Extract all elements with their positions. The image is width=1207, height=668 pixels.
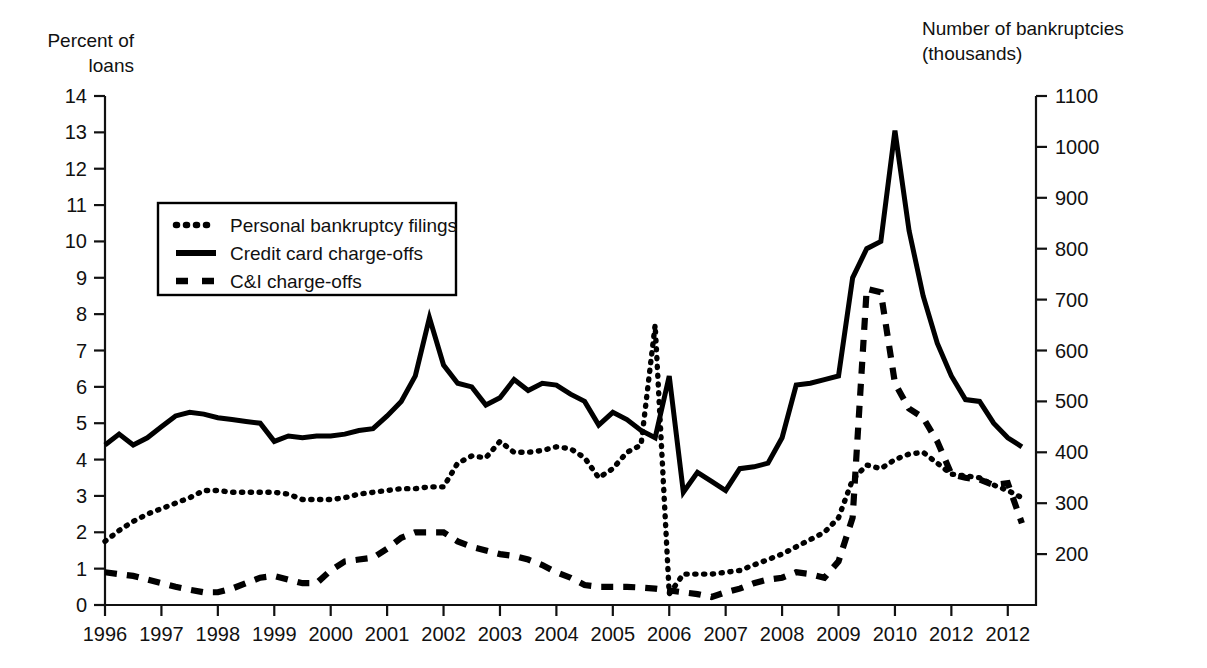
plot-frame (105, 96, 1036, 605)
y-axis-right-tick-label: 200 (1055, 543, 1088, 565)
legend-label: C&I charge-offs (230, 271, 362, 292)
x-axis-tick-label: 1996 (83, 623, 128, 645)
y-axis-left-tick-label: 13 (65, 121, 87, 143)
x-axis-tick-label: 2003 (478, 623, 523, 645)
x-axis-tick-label: 1997 (139, 623, 184, 645)
x-axis-tick-label: 2007 (703, 623, 748, 645)
y-axis-left-tick-label: 11 (66, 194, 87, 216)
y-axis-right-tick-label: 300 (1055, 492, 1088, 514)
left-axis-title: Percent of loans (14, 28, 134, 78)
x-axis-tick-label: 2004 (534, 623, 579, 645)
x-axis-tick-label: 1999 (252, 623, 297, 645)
legend-label: Personal bankruptcy filings (230, 215, 457, 236)
x-axis-tick-label: 2002 (421, 623, 466, 645)
y-axis-left-tick-label: 4 (76, 449, 87, 471)
x-axis-tick-label: 2012 (929, 623, 974, 645)
x-axis-tick-label: 2006 (647, 623, 692, 645)
x-axis-tick-label: 2012 (986, 623, 1031, 645)
y-axis-left-tick-label: 7 (76, 340, 87, 362)
series-personal-bankruptcy-filings (105, 325, 1022, 594)
x-axis-tick-label: 2009 (816, 623, 861, 645)
y-axis-left-tick-label: 8 (76, 303, 87, 325)
y-axis-right-tick-label: 700 (1055, 289, 1088, 311)
y-axis-left-tick-label: 1 (76, 558, 87, 580)
chart-figure: Percent of loans Number of bankruptcies … (0, 0, 1207, 668)
data-series-group (105, 131, 1022, 597)
series-c-i-charge-offs (105, 289, 1022, 597)
y-axis-left-tick-label: 2 (76, 521, 87, 543)
legend-label: Credit card charge-offs (230, 243, 423, 264)
x-axis-tick-label: 2000 (308, 623, 353, 645)
x-axis-ticks: 1996199719981999200020012002200320042005… (83, 605, 1030, 645)
y-axis-left-tick-label: 3 (76, 485, 87, 507)
y-axis-left-tick-label: 6 (76, 376, 87, 398)
x-axis-tick-label: 2005 (591, 623, 636, 645)
y-axis-right-tick-label: 400 (1055, 441, 1088, 463)
y-axis-right-tick-label: 1000 (1055, 136, 1100, 158)
axis-spines (105, 96, 1036, 605)
x-axis-tick-label: 2008 (760, 623, 805, 645)
y-axis-right-tick-label: 500 (1055, 390, 1088, 412)
y-axis-right-ticks: 20030040050060070080090010001100 (1036, 85, 1100, 565)
y-axis-left-tick-label: 9 (76, 267, 87, 289)
y-axis-left-tick-label: 0 (76, 594, 87, 616)
y-axis-left-ticks: 01234567891011121314 (65, 85, 105, 616)
y-axis-left-tick-label: 5 (76, 412, 87, 434)
chart-plot-area: 01234567891011121314 2003004005006007008… (0, 0, 1207, 668)
y-axis-right-tick-label: 800 (1055, 238, 1088, 260)
chart-legend: Personal bankruptcy filingsCredit card c… (158, 203, 457, 295)
y-axis-left-tick-label: 12 (65, 158, 87, 180)
x-axis-tick-label: 2010 (873, 623, 918, 645)
y-axis-left-tick-label: 14 (65, 85, 87, 107)
x-axis-tick-label: 1998 (196, 623, 241, 645)
y-axis-right-tick-label: 600 (1055, 340, 1088, 362)
y-axis-right-tick-label: 1100 (1055, 85, 1098, 107)
y-axis-right-tick-label: 900 (1055, 187, 1088, 209)
y-axis-left-tick-label: 10 (65, 230, 87, 252)
right-axis-title: Number of bankruptcies (thousands) (922, 16, 1202, 66)
x-axis-tick-label: 2001 (365, 623, 410, 645)
